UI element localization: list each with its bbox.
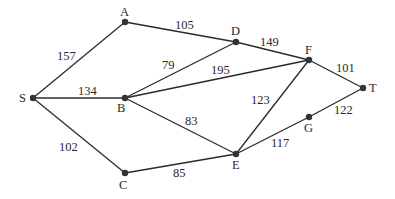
node-g xyxy=(306,114,312,120)
node-label-t: T xyxy=(369,81,377,95)
edge-weight-d-f: 149 xyxy=(260,35,279,49)
node-label-a: A xyxy=(120,5,129,19)
edge-weight-b-e: 83 xyxy=(185,114,198,128)
edge-weight-e-g: 117 xyxy=(271,136,289,150)
node-label-d: D xyxy=(231,24,240,38)
node-label-e: E xyxy=(232,158,240,172)
edge-s-c xyxy=(33,98,125,173)
node-c xyxy=(122,170,128,176)
node-label-f: F xyxy=(305,43,312,57)
node-f xyxy=(306,57,312,63)
node-s xyxy=(30,95,36,101)
edge-weight-c-e: 85 xyxy=(173,166,186,180)
edge-weight-s-c: 102 xyxy=(59,140,78,154)
graph-diagram: 157134102105791958385149101123117122 SAB… xyxy=(0,0,395,199)
node-label-b: B xyxy=(117,101,125,115)
node-label-g: G xyxy=(304,121,313,135)
node-t xyxy=(360,85,366,91)
node-d xyxy=(233,39,239,45)
edge-b-e xyxy=(125,98,236,154)
node-label-s: S xyxy=(19,91,26,105)
edge-weight-b-d: 79 xyxy=(162,58,175,72)
node-a xyxy=(122,19,128,25)
edge-weight-b-f: 195 xyxy=(211,63,230,77)
edge-weight-s-a: 157 xyxy=(57,49,76,63)
edge-weight-f-e: 123 xyxy=(251,93,270,107)
node-e xyxy=(233,151,239,157)
edge-weight-f-t: 101 xyxy=(336,61,355,75)
edge-weight-a-d: 105 xyxy=(175,18,194,32)
edge-weight-g-t: 122 xyxy=(334,103,353,117)
node-label-c: C xyxy=(119,178,127,192)
edge-weight-s-b: 134 xyxy=(78,84,98,98)
